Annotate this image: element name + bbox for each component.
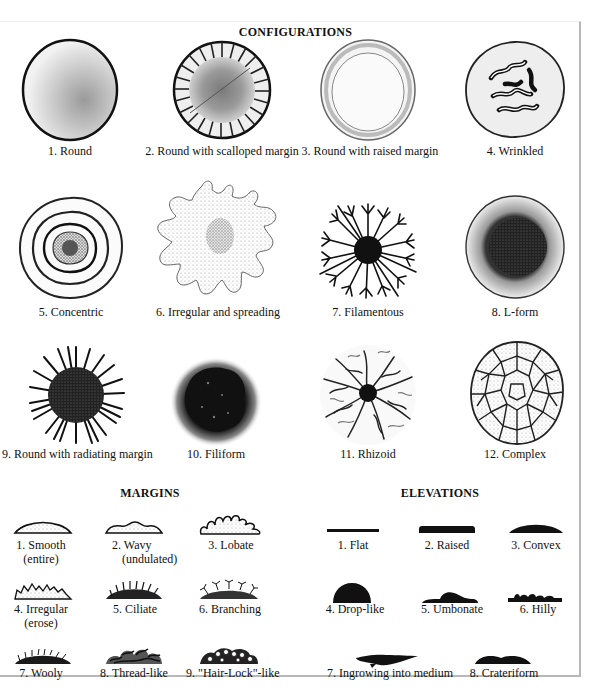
margin-label-8: 8. Thread-like [94,666,174,680]
umbonate-elevation-icon [422,589,478,603]
margin-label-2: 2. Wavy (undulated) [106,538,178,566]
config-label-11: 11. Rhizoid [318,447,418,461]
rhizoid-colony-icon [318,343,418,447]
margin-label-2-main: 2. Wavy [112,538,151,552]
raised-margin-colony-icon [318,37,418,143]
filamentous-colony-icon [318,200,418,300]
config-label-1: 1. Round [20,144,120,158]
elevation-label-2: 2. Raised [417,538,477,552]
config-label-8: 8. L-form [463,305,567,319]
elevations-title: ELEVATIONS [370,486,510,501]
margin-label-5: 5. Ciliate [100,602,170,616]
config-label-2: 2. Round with scalloped margin [140,144,304,158]
thread-like-margin-icon [104,645,164,665]
round-colony-icon [20,38,120,142]
convex-elevation-icon [509,520,563,533]
config-label-6: 6. Irregular and spreading [150,305,286,319]
margin-label-6: 6. Branching [192,602,268,616]
margins-title: MARGINS [80,486,220,501]
flat-elevation-icon [327,529,379,533]
margin-label-7: 7. Wooly [10,666,72,680]
irregular-colony-icon [152,176,284,304]
irregular-margin-icon [14,580,72,600]
elevation-label-4: 4. Drop-like [320,602,390,616]
margin-label-9: 9. "Hair-Lock"-like [186,666,276,680]
scalloped-colony-icon [170,38,274,142]
margin-label-3: 3. Lobate [196,538,266,552]
branching-margin-icon [198,580,260,600]
lobate-margin-icon [199,511,261,535]
config-label-9: 9. Round with radiating margin [2,447,148,461]
config-label-12: 12. Complex [463,447,567,461]
raised-elevation-icon [419,526,475,533]
elevation-label-7: 7. Ingrowing into medium [322,666,458,680]
wooly-margin-icon [14,649,72,665]
elevation-label-1: 1. Flat [323,538,383,552]
elevation-label-8: 8. Crateriform [468,666,540,680]
config-label-3: 3. Round with raised margin [290,144,450,158]
margin-label-2-sub: (undulated) [122,552,177,566]
ciliate-margin-icon [104,580,164,600]
l-form-colony-icon [463,194,567,300]
config-label-5: 5. Concentric [18,305,124,319]
smooth-margin-icon [14,516,72,534]
complex-colony-icon [469,340,565,448]
crateriform-elevation-icon [475,654,531,664]
radiating-colony-icon [28,345,124,445]
elevation-label-6: 6. Hilly [510,602,566,616]
hair-lock-margin-icon [198,645,260,665]
elevation-label-5: 5. Umbonate [414,602,490,616]
elevation-label-3: 3. Convex [506,538,566,552]
margin-label-1-sub: (entire) [23,552,58,566]
hilly-elevation-icon [508,588,562,602]
margin-label-4-main: 4. Irregular [14,602,68,616]
config-label-7: 7. Filamentous [318,305,418,319]
drop-like-elevation-icon [333,583,371,603]
wavy-margin-icon [105,516,163,534]
margin-label-1: 1. Smooth (entire) [10,538,72,566]
config-label-10: 10. Filiform [166,447,266,461]
filiform-colony-icon [168,355,264,449]
config-label-4: 4. Wrinkled [463,144,567,158]
margin-label-1-main: 1. Smooth [16,538,65,552]
wrinkled-colony-icon [463,38,567,140]
concentric-colony-icon [18,194,124,302]
margin-label-4-sub: (erose) [24,616,57,630]
margin-label-4: 4. Irregular (erose) [10,602,72,630]
